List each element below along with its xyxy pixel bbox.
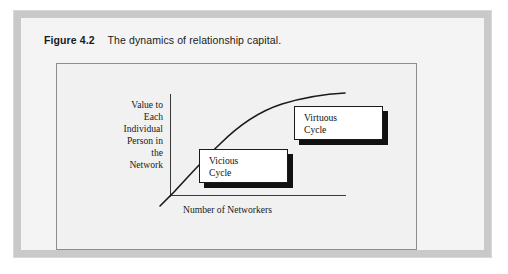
annotation-virtuous-cycle: Virtuous Cycle: [294, 106, 383, 140]
annotation-vicious-cycle-label: Vicious Cycle: [200, 150, 287, 180]
chart-plot-frame: Value to Each Individual Person in the N…: [56, 63, 417, 250]
y-axis-title: Value to Each Individual Person in the N…: [71, 99, 163, 170]
y-axis-title-text: Value to Each Individual Person in the N…: [124, 99, 163, 170]
figure-caption-text: The dynamics of relationship capital.: [108, 34, 282, 46]
figure-caption-label: Figure 4.2: [44, 34, 95, 46]
figure-caption: Figure 4.2The dynamics of relationship c…: [44, 34, 281, 46]
annotation-virtuous-cycle-label: Virtuous Cycle: [295, 107, 382, 137]
figure-panel: Figure 4.2The dynamics of relationship c…: [13, 10, 492, 258]
annotation-vicious-cycle: Vicious Cycle: [199, 149, 288, 183]
x-axis-line: [170, 195, 346, 196]
y-axis-line: [170, 94, 171, 197]
x-axis-title: Number of Networkers: [183, 204, 272, 215]
